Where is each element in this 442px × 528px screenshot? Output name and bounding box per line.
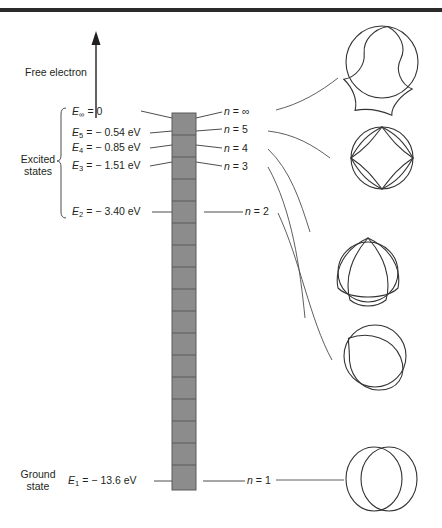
excited-states-line1: Excited — [21, 153, 55, 165]
quantum-number-label-3: n=3 — [224, 160, 248, 172]
energy-label-4: E2=− 3.40 eV — [72, 205, 141, 219]
n-equals: = — [230, 105, 242, 117]
quantum-number-label-2: n=4 — [224, 142, 248, 154]
n-value: 5 — [242, 123, 248, 135]
n-symbol: n — [224, 160, 230, 172]
n-symbol: n — [224, 142, 230, 154]
top-rule — [0, 8, 442, 12]
energy-level-diagram: Free electron Excited states Ground stat… — [0, 0, 442, 528]
energy-value: − 0.54 eV — [95, 126, 140, 138]
orbital-n3 — [337, 238, 399, 306]
energy-equals: = — [83, 141, 95, 153]
energy-equals: = — [79, 474, 91, 486]
energy-value: − 0.85 eV — [95, 141, 140, 153]
excited-states-label: Excited states — [12, 153, 64, 177]
energy-label-5: E1=− 13.6 eV — [68, 474, 137, 488]
n-value: 4 — [242, 142, 248, 154]
ground-state-line2: state — [27, 480, 50, 492]
diagram-canvas — [0, 0, 442, 528]
n-value: 3 — [242, 160, 248, 172]
n-symbol: n — [224, 105, 230, 117]
energy-symbol: E — [72, 205, 79, 217]
ground-state-line1: Ground — [20, 468, 55, 480]
orbital-n2 — [344, 325, 406, 395]
n-symbol: n — [224, 123, 230, 135]
energy-value: − 3.40 eV — [95, 205, 140, 217]
energy-symbol: E — [72, 126, 79, 138]
n-symbol: n — [247, 474, 253, 486]
quantum-number-label-1: n=5 — [224, 123, 248, 135]
free-electron-label: Free electron — [25, 66, 87, 78]
energy-symbol: E — [72, 159, 79, 171]
energy-label-3: E3=− 1.51 eV — [72, 159, 141, 173]
energy-label-2: E4=− 0.85 eV — [72, 141, 141, 155]
orbital-connector-lines — [268, 78, 344, 480]
n-equals: = — [230, 160, 242, 172]
excited-states-line2: states — [24, 165, 52, 177]
energy-symbol: E — [68, 474, 75, 486]
energy-equals: = — [83, 126, 95, 138]
standing-wave-orbitals — [337, 21, 421, 511]
energy-equals: = — [83, 205, 95, 217]
energy-symbol: E — [72, 105, 79, 117]
ground-state-label: Ground state — [10, 468, 66, 492]
n-value: ∞ — [242, 105, 250, 117]
n-symbol: n — [245, 205, 251, 217]
energy-value: − 1.51 eV — [95, 159, 140, 171]
n-equals: = — [251, 205, 263, 217]
quantum-number-label-4: n=2 — [245, 205, 269, 217]
energy-value: − 13.6 eV — [91, 474, 136, 486]
n-equals: = — [253, 474, 265, 486]
orbital-n4 — [351, 127, 413, 189]
n-value: 1 — [265, 474, 271, 486]
energy-equals: = — [84, 105, 96, 117]
energy-symbol: E — [72, 141, 79, 153]
energy-value: 0 — [97, 105, 103, 117]
level-leader-lines-left — [141, 111, 172, 481]
energy-ladder — [172, 113, 196, 490]
n-equals: = — [230, 123, 242, 135]
energy-label-1: E5=− 0.54 eV — [72, 126, 141, 140]
quantum-number-label-0: n=∞ — [224, 105, 249, 117]
orbital-n1 — [346, 447, 417, 511]
n-equals: = — [230, 142, 242, 154]
orbital-n5 — [339, 21, 421, 119]
quantum-number-label-5: n=1 — [247, 474, 271, 486]
n-value: 2 — [263, 205, 269, 217]
energy-equals: = — [83, 159, 95, 171]
energy-label-0: E∞=0 — [72, 105, 102, 119]
